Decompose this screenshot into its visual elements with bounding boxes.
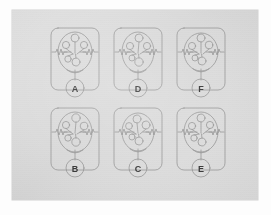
panel-outline <box>114 108 162 170</box>
schematic-stem <box>130 149 146 160</box>
schematic-node-upper-right <box>80 41 87 48</box>
schematic-node-top <box>71 34 79 42</box>
panel-outline <box>177 108 225 170</box>
schematic-link-lines <box>61 42 89 58</box>
schematic-node-upper-right <box>142 121 150 129</box>
schematic-node-top <box>197 114 205 122</box>
panel-outline <box>51 108 99 170</box>
schematic-node-lower-left <box>192 55 198 61</box>
schematic-d: D <box>110 26 166 104</box>
right-zigzag-icon <box>209 49 224 55</box>
schematic-node-lower-left <box>129 55 135 61</box>
right-zigzag-icon <box>83 49 98 55</box>
schematic-link-lines <box>125 123 151 137</box>
scanned-sheet: A <box>12 10 258 200</box>
schematic-link-lines <box>125 42 152 58</box>
diagram-panel-c[interactable]: C <box>110 106 166 184</box>
panel-outline <box>177 28 225 90</box>
right-zigzag-icon <box>146 49 161 55</box>
schematic-node-bottom <box>72 58 80 66</box>
schematic-node-top <box>72 114 80 122</box>
diagram-panel-f[interactable]: F <box>173 26 229 104</box>
schematic-node-upper-right <box>80 122 88 130</box>
schematic-stem <box>193 150 209 160</box>
panel-label-e: E <box>198 164 204 174</box>
schematic-link-lines <box>187 122 215 138</box>
schematic-stem <box>67 150 83 160</box>
schematic-node-upper-left <box>126 123 133 130</box>
left-zigzag-icon <box>178 49 193 55</box>
schematic-node-upper-right <box>205 41 213 49</box>
right-zigzag-icon <box>209 129 224 135</box>
schematic-stem <box>67 70 83 80</box>
right-zigzag-icon <box>146 129 161 135</box>
left-zigzag-icon <box>115 129 130 135</box>
schematic-node-upper-left <box>126 42 133 49</box>
schematic-b: B <box>47 106 103 184</box>
schematic-node-bottom <box>198 57 206 65</box>
schematic-node-upper-left <box>188 42 195 49</box>
schematic-node-upper-right <box>143 42 150 49</box>
schematic-f: F <box>173 26 229 104</box>
diagram-panel-a[interactable]: A <box>47 26 103 104</box>
panel-label-b: B <box>72 164 79 174</box>
panel-label-f: F <box>198 84 204 94</box>
panel-outline <box>114 28 162 90</box>
schematic-node-bottom <box>135 137 143 145</box>
schematic-a: A <box>47 26 103 104</box>
left-zigzag-icon <box>115 49 130 55</box>
diagram-grid: A <box>12 10 258 200</box>
schematic-node-upper-left <box>62 121 69 128</box>
left-zigzag-icon <box>52 129 67 135</box>
schematic-node-upper-left <box>188 122 195 129</box>
schematic-node-upper-left <box>62 41 69 48</box>
panel-outline <box>51 28 99 90</box>
screenshot-root: A <box>0 0 271 215</box>
panel-label-d: D <box>135 84 142 94</box>
schematic-node-top <box>133 115 141 123</box>
schematic-stem <box>193 69 209 80</box>
schematic-node-bottom <box>198 138 206 146</box>
schematic-node-top <box>197 34 205 42</box>
schematic-c: C <box>110 106 166 184</box>
panel-label-a: A <box>72 84 79 94</box>
schematic-stem <box>130 70 146 80</box>
schematic-node-lower-left <box>65 135 71 141</box>
left-zigzag-icon <box>52 49 67 55</box>
schematic-node-upper-right <box>206 121 213 128</box>
schematic-node-top <box>135 34 143 42</box>
diagram-panel-d[interactable]: D <box>110 26 166 104</box>
schematic-node-lower-left <box>65 56 71 62</box>
schematic-node-lower-left <box>129 134 135 140</box>
schematic-node-bottom <box>72 138 80 146</box>
panel-label-c: C <box>135 164 142 174</box>
schematic-node-lower-left <box>191 135 197 141</box>
schematic-e: E <box>173 106 229 184</box>
diagram-panel-e[interactable]: E <box>173 106 229 184</box>
diagram-panel-b[interactable]: B <box>47 106 103 184</box>
schematic-node-bottom <box>135 58 143 66</box>
left-zigzag-icon <box>178 129 193 135</box>
